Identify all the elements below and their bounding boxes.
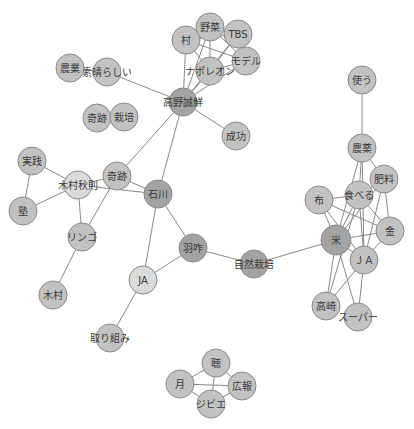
node-label: 素晴らしい [82,66,132,78]
graph-node[interactable]: 実践 [18,147,46,175]
graph-node[interactable]: モデル [231,47,261,75]
node-label: 農業 [60,62,80,74]
graph-node[interactable]: 金 [376,217,404,245]
node-label: 塾 [18,205,28,217]
node-label: 高野誠鮮 [163,96,203,108]
graph-node[interactable]: 米 [321,225,351,255]
graph-node[interactable]: 聴 [202,349,230,377]
graph-node[interactable]: 肥料 [370,165,398,193]
node-label: モデル [231,55,261,67]
graph-node[interactable]: 食べる [344,181,374,209]
graph-node[interactable]: ＪＡ [350,246,378,274]
node-label: 農薬 [352,142,372,154]
graph-node[interactable]: 塾 [9,197,37,225]
graph-node[interactable]: ジビエ [196,390,226,418]
graph-node[interactable]: 農業 [56,54,84,82]
graph-node[interactable]: 取り組み [90,324,130,352]
graph-node[interactable]: 村 [172,26,200,54]
graph-node[interactable]: 栽培 [110,103,138,131]
node-label: TBS [227,29,247,40]
node-label: 米 [331,234,341,246]
node-label: JA [137,275,148,286]
node-label: 布 [314,195,324,206]
node-layer: 村野菜TBSモデルナポレオン農業素晴らしい高野誠鮮奇跡栽培成功実践木村秋則奇跡石… [9,13,404,418]
graph-node[interactable]: 成功 [222,122,250,150]
graph-node[interactable]: 農薬 [348,134,376,162]
graph-node[interactable]: 奇跡 [103,162,131,190]
graph-node[interactable]: 羽咋 [179,234,207,262]
node-label: ナポレオン [185,66,235,77]
network-graph: 村野菜TBSモデルナポレオン農業素晴らしい高野誠鮮奇跡栽培成功実践木村秋則奇跡石… [0,0,414,429]
graph-node[interactable]: ナポレオン [185,57,235,85]
node-label: 木村 [43,289,63,301]
node-label: スーパー [338,312,378,323]
node-label: 使う [352,74,372,86]
graph-node[interactable]: 自然栽培 [234,250,274,278]
graph-node[interactable]: JA [129,266,157,294]
node-label: 食べる [344,189,374,201]
node-label: 奇跡 [107,170,127,182]
node-label: 実践 [22,155,42,167]
node-label: 成功 [226,131,246,142]
node-label: 村 [181,34,191,46]
graph-node[interactable]: 高崎 [312,292,340,320]
node-label: リンゴ [67,231,97,243]
graph-node[interactable]: 木村秋則 [58,171,98,199]
graph-node[interactable]: 広報 [228,372,256,400]
node-label: 肥料 [374,173,394,185]
node-label: 高崎 [316,300,336,312]
graph-node[interactable]: TBS [224,20,252,48]
graph-node[interactable]: リンゴ [67,223,97,251]
graph-node[interactable]: 月 [166,370,194,398]
graph-node[interactable]: 木村 [39,281,67,309]
node-label: 木村秋則 [58,179,98,191]
node-label: 聴 [211,358,221,369]
node-label: 金 [385,225,395,237]
node-label: 月 [175,379,185,390]
node-label: 広報 [232,380,252,392]
node-label: 石川 [148,189,168,200]
graph-node[interactable]: 使う [348,66,376,94]
node-label: 自然栽培 [234,258,274,270]
graph-node[interactable]: スーパー [338,303,378,331]
node-label: ＪＡ [354,255,374,266]
graph-node[interactable]: 野菜 [196,13,224,41]
graph-node[interactable]: 奇跡 [83,104,111,132]
node-label: 栽培 [114,111,134,123]
graph-node[interactable]: 素晴らしい [82,58,132,86]
graph-node[interactable]: 高野誠鮮 [163,88,203,116]
node-label: 奇跡 [87,112,107,124]
node-label: 取り組み [90,332,130,344]
graph-node[interactable]: 布 [305,186,333,214]
graph-node[interactable]: 石川 [144,180,172,208]
node-label: 羽咋 [183,242,203,254]
node-label: ジビエ [196,399,226,410]
node-label: 野菜 [200,22,220,33]
